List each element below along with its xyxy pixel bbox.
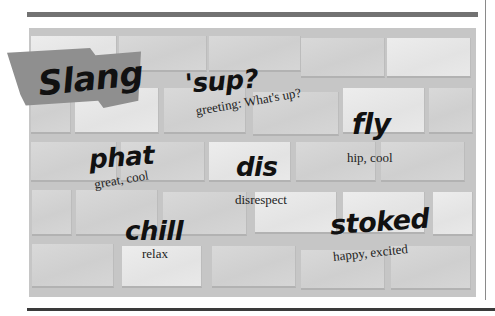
- term-word: dis: [236, 152, 278, 182]
- brick: [381, 142, 465, 182]
- term-meaning: disrespect: [235, 192, 287, 208]
- brick: [32, 190, 72, 236]
- brick: [212, 246, 296, 288]
- bottom-rule: [27, 308, 495, 311]
- brick: [387, 38, 471, 78]
- term-word: fly: [352, 108, 391, 141]
- term-word: chill: [125, 216, 183, 246]
- term-meaning: relax: [142, 246, 168, 262]
- brick: [32, 244, 114, 288]
- right-margin-rule: [485, 0, 486, 300]
- brick: [429, 88, 473, 134]
- brick: [433, 192, 473, 236]
- brick: [301, 38, 385, 78]
- top-rule: [27, 12, 478, 17]
- term-meaning: hip, cool: [347, 150, 393, 166]
